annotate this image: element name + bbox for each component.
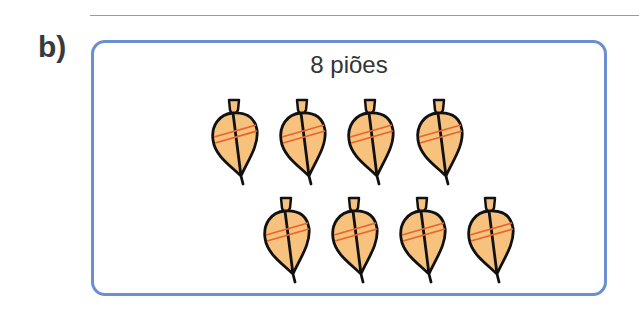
spinning-top-icon [414,98,466,186]
spinning-top-icon [261,196,313,284]
spinning-top-icon [345,98,397,186]
answer-line [90,15,639,16]
caption: 8 piões [94,51,604,79]
spinning-top-icon [465,196,517,284]
exercise-label: b) [38,30,66,64]
spinning-top-icon [277,98,329,186]
spinning-top-icon [329,196,381,284]
spinning-top-icon [209,98,261,186]
spinning-top-icon [397,196,449,284]
